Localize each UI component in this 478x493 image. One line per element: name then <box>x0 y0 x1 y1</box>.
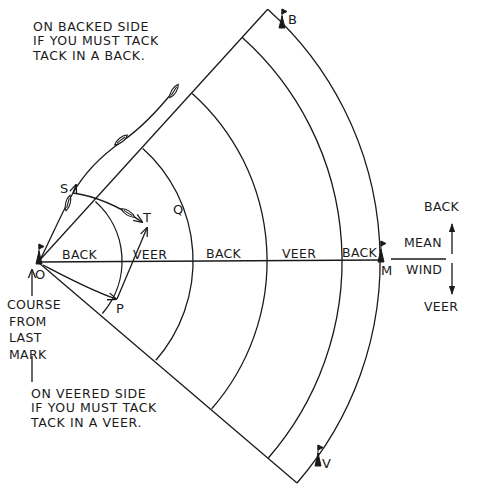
sector-label-back-2: BACK <box>206 247 241 261</box>
wind-back-label: BACK <box>424 200 459 214</box>
course-from-last-mark-label: COURSE FROM LAST MARK <box>7 297 61 363</box>
wind-shift-sector-diagram: ON BACKED SIDE IF YOU MUST TACK TACK IN … <box>0 0 478 493</box>
label-line: MARK <box>7 347 61 364</box>
arrow-o-to-p <box>43 265 116 299</box>
point-label-m: M <box>381 264 393 278</box>
sector-label-back-3: BACK <box>342 246 377 260</box>
boat-icon <box>168 83 180 99</box>
sector-label-veer-1: VEER <box>133 248 167 262</box>
label-line: LAST <box>7 330 61 347</box>
note-line: IF YOU MUST TACK <box>31 401 157 415</box>
label-line: COURSE <box>7 297 61 314</box>
note-line: ON VEERED SIDE <box>31 387 157 401</box>
flag-icon-b <box>279 9 287 28</box>
lower-sector-edge <box>38 262 297 483</box>
sector-label-back-1: BACK <box>62 248 97 262</box>
point-label-t: T <box>143 211 151 225</box>
point-label-s: S <box>60 182 69 196</box>
mean-wind-label-bottom: WIND <box>406 263 442 277</box>
label-line: FROM <box>7 314 61 331</box>
point-label-b: B <box>288 13 297 27</box>
boat-icon <box>113 133 128 146</box>
mean-wind-label-top: MEAN <box>404 236 442 250</box>
point-label-o: O <box>35 268 46 282</box>
point-label-p: P <box>116 302 124 316</box>
boat-icon <box>64 195 72 212</box>
wind-veer-label: VEER <box>424 300 458 314</box>
point-label-v: V <box>322 457 331 471</box>
note-line: IF YOU MUST TACK <box>33 34 159 48</box>
veered-side-note: ON VEERED SIDE IF YOU MUST TACK TACK IN … <box>31 387 157 430</box>
arrow-s-to-t <box>73 193 142 222</box>
note-line: TACK IN A BACK. <box>33 49 159 63</box>
backed-side-note: ON BACKED SIDE IF YOU MUST TACK TACK IN … <box>33 20 159 63</box>
note-line: ON BACKED SIDE <box>33 20 159 34</box>
note-line: TACK IN A VEER. <box>31 416 157 430</box>
boat-track-backed <box>41 88 176 258</box>
boat-icon <box>120 207 136 219</box>
sector-label-veer-2: VEER <box>282 247 316 261</box>
point-label-q: Q <box>173 203 184 217</box>
